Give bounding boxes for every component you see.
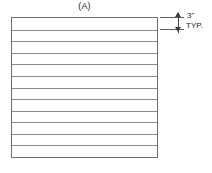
arrow-up-icon (175, 12, 181, 17)
technical-drawing: (A) 3" TYP. (0, 0, 212, 173)
panel-rule-4 (12, 64, 157, 65)
dimension-value: 3" (187, 11, 194, 21)
panel-rule-9 (12, 122, 157, 123)
panel-rule-6 (12, 88, 157, 89)
panel-rule-7 (12, 99, 157, 100)
lined-panel (11, 17, 158, 158)
part-label: (A) (0, 1, 169, 12)
dimension-annotation: 3" TYP. (158, 10, 212, 44)
panel-rule-5 (12, 76, 157, 77)
arrow-down-icon (175, 27, 181, 32)
panel-rule-11 (12, 145, 157, 146)
panel-rule-8 (12, 111, 157, 112)
panel-rule-1 (12, 30, 157, 31)
panel-rule-2 (12, 41, 157, 42)
extension-line-top (160, 17, 184, 18)
panel-rule-10 (12, 134, 157, 135)
panel-rule-3 (12, 53, 157, 54)
dimension-note: TYP. (186, 21, 203, 31)
